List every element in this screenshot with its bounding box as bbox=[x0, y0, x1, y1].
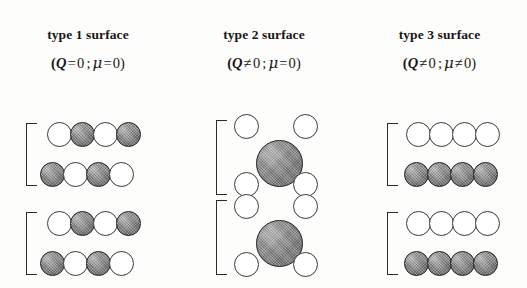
repeat-unit-bracket bbox=[387, 212, 398, 275]
atom-filled bbox=[86, 251, 111, 276]
atom-open bbox=[429, 211, 454, 236]
atom-open bbox=[234, 194, 259, 219]
atom-filled bbox=[427, 162, 452, 187]
atom-filled bbox=[116, 122, 141, 147]
atom-filled bbox=[404, 251, 429, 276]
atom-filled bbox=[70, 122, 95, 147]
type-1-separator: ; bbox=[84, 55, 92, 71]
type-3-title: type 3 surface bbox=[352, 27, 527, 43]
atom-filled bbox=[116, 211, 141, 236]
atom-filled bbox=[473, 251, 498, 276]
atom-filled bbox=[427, 251, 452, 276]
type-1-dipole-symbol: μ bbox=[93, 54, 103, 72]
type-1-charge-relation: = bbox=[67, 55, 77, 71]
column-type-1: type 1 surface (Q=0;μ=0) bbox=[0, 0, 176, 288]
atom-open bbox=[293, 114, 318, 139]
type-2-formula: (Q≠0;μ=0) bbox=[176, 54, 352, 72]
atom-open bbox=[406, 211, 431, 236]
atom-open bbox=[475, 211, 500, 236]
repeat-unit-bracket bbox=[26, 212, 37, 275]
column-type-2: type 2 surface (Q≠0;μ=0) bbox=[176, 0, 352, 288]
type-3-dipole-relation: ≠ bbox=[454, 55, 464, 71]
atom-open bbox=[47, 122, 72, 147]
atom-open bbox=[93, 211, 118, 236]
atom-open bbox=[406, 122, 431, 147]
atom-open bbox=[63, 251, 88, 276]
repeat-unit-bracket bbox=[216, 120, 227, 195]
atom-open bbox=[429, 122, 454, 147]
repeat-unit-bracket bbox=[216, 200, 227, 275]
type-3-dipole-symbol: μ bbox=[444, 54, 454, 72]
atom-filled bbox=[70, 211, 95, 236]
type-2-lattice bbox=[176, 110, 352, 288]
type-3-close-paren: ) bbox=[471, 55, 476, 71]
atom-open bbox=[293, 194, 318, 219]
atom-filled bbox=[40, 162, 65, 187]
type-1-dipole-value: 0 bbox=[113, 55, 120, 71]
atom-filled bbox=[450, 251, 475, 276]
atom-open bbox=[475, 122, 500, 147]
type-2-title: type 2 surface bbox=[176, 27, 352, 43]
type-1-title: type 1 surface bbox=[0, 27, 176, 43]
type-3-lattice bbox=[352, 110, 527, 288]
repeat-unit-bracket bbox=[387, 123, 398, 186]
type-3-separator: ; bbox=[436, 55, 444, 71]
type-1-charge-symbol: Q bbox=[56, 55, 67, 71]
atom-open bbox=[109, 251, 134, 276]
atom-filled bbox=[86, 162, 111, 187]
tasker-surface-types-figure: type 1 surface (Q=0;μ=0) bbox=[0, 0, 527, 288]
atom-filled bbox=[450, 162, 475, 187]
atom-filled bbox=[473, 162, 498, 187]
atom-filled bbox=[404, 162, 429, 187]
type-3-formula: (Q≠0;μ≠0) bbox=[352, 54, 527, 72]
atom-open bbox=[452, 211, 477, 236]
atom-filled bbox=[40, 251, 65, 276]
type-1-dipole-relation: = bbox=[102, 55, 112, 71]
type-2-dipole-relation: = bbox=[278, 55, 288, 71]
column-type-3: type 3 surface (Q≠0;μ≠0) bbox=[352, 0, 527, 288]
type-2-charge-symbol: Q bbox=[232, 55, 243, 71]
atom-open bbox=[93, 122, 118, 147]
repeat-unit-bracket bbox=[26, 123, 37, 186]
type-2-dipole-symbol: μ bbox=[268, 54, 278, 72]
type-1-close-paren: ) bbox=[120, 55, 125, 71]
atom-open bbox=[109, 162, 134, 187]
atom-open bbox=[63, 162, 88, 187]
type-1-formula: (Q=0;μ=0) bbox=[0, 54, 176, 72]
type-2-dipole-value: 0 bbox=[289, 55, 296, 71]
atom-open bbox=[452, 122, 477, 147]
atom-open bbox=[293, 252, 318, 277]
type-3-charge-relation: ≠ bbox=[418, 55, 428, 71]
atom-open bbox=[234, 252, 259, 277]
atom-open bbox=[47, 211, 72, 236]
type-2-close-paren: ) bbox=[296, 55, 301, 71]
atom-open bbox=[234, 114, 259, 139]
type-1-lattice bbox=[0, 110, 176, 288]
type-3-charge-value: 0 bbox=[429, 55, 436, 71]
type-3-charge-symbol: Q bbox=[408, 55, 419, 71]
type-2-charge-relation: ≠ bbox=[243, 55, 253, 71]
